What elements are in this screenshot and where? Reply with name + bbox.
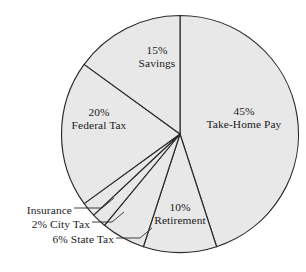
slice-label-insurance: Insurance	[2, 204, 72, 216]
slice-label-savings: 15% Savings	[122, 44, 192, 70]
slice-label-state-tax: 6% State Tax	[2, 233, 114, 245]
slice-percent-savings: 15%	[122, 44, 192, 57]
slice-name-take-home-pay: Take-Home Pay	[196, 118, 292, 131]
slice-name-retirement: Retirement	[142, 214, 218, 227]
slice-label-retirement: 10% Retirement	[142, 201, 218, 227]
slice-percent-retirement: 10%	[142, 201, 218, 214]
pie-chart: 45% Take-Home Pay 15% Savings 20% Federa…	[0, 0, 306, 272]
slice-percent-take-home-pay: 45%	[196, 105, 292, 118]
slice-label-federal-tax: 20% Federal Tax	[53, 106, 145, 132]
slice-label-take-home-pay: 45% Take-Home Pay	[196, 105, 292, 131]
pie-chart-canvas	[0, 0, 306, 272]
slice-name-savings: Savings	[122, 57, 192, 70]
slice-name-federal-tax: Federal Tax	[53, 119, 145, 132]
slice-label-city-tax: 2% City Tax	[2, 218, 90, 230]
slice-percent-federal-tax: 20%	[53, 106, 145, 119]
